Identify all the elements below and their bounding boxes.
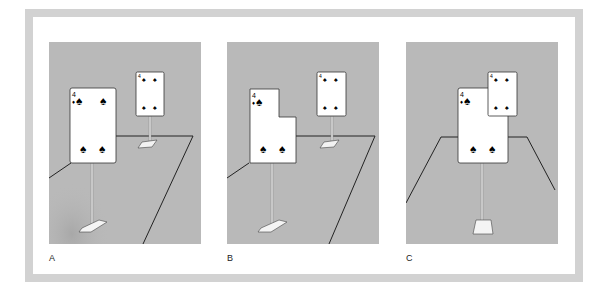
svg-text:♠: ♠ bbox=[505, 76, 509, 83]
svg-text:♠: ♠ bbox=[323, 76, 327, 83]
svg-text:♠: ♠ bbox=[99, 142, 106, 156]
panel-c-illustration: 4 ♦ ♠ ♠ ♠ 4 ♠ ♠ ♠ ♠ bbox=[406, 42, 558, 244]
svg-text:♠: ♠ bbox=[323, 104, 327, 111]
svg-text:♠: ♠ bbox=[334, 104, 338, 111]
panel-b-label: B bbox=[227, 253, 233, 263]
svg-text:4: 4 bbox=[138, 73, 141, 79]
svg-text:♠: ♠ bbox=[142, 104, 146, 111]
svg-text:♠: ♠ bbox=[470, 142, 477, 156]
svg-text:♠: ♠ bbox=[279, 142, 286, 156]
panel-b-illustration: 4 ♠ ♠ ♠ ♠ 4 ♦ ♠ ♠ ♠ bbox=[227, 42, 379, 244]
svg-text:♠: ♠ bbox=[153, 76, 157, 83]
svg-text:4: 4 bbox=[490, 73, 493, 79]
svg-text:♠: ♠ bbox=[80, 142, 87, 156]
svg-text:♠: ♠ bbox=[100, 94, 107, 108]
panel-b: 4 ♠ ♠ ♠ ♠ 4 ♦ ♠ ♠ ♠ bbox=[227, 42, 379, 244]
svg-text:♠: ♠ bbox=[260, 142, 267, 156]
panel-a-illustration: 4 ♠ ♠ ♠ ♠ 4 ♦ ♠ ♠ ♠ ♠ bbox=[49, 42, 201, 244]
svg-text:♦: ♦ bbox=[460, 99, 463, 105]
svg-text:♠: ♠ bbox=[256, 95, 263, 109]
svg-text:♠: ♠ bbox=[494, 104, 498, 111]
panel-a-label: A bbox=[49, 253, 55, 263]
svg-text:♦: ♦ bbox=[72, 99, 75, 105]
svg-text:♦: ♦ bbox=[252, 100, 255, 106]
svg-text:♠: ♠ bbox=[489, 142, 496, 156]
svg-text:♠: ♠ bbox=[334, 76, 338, 83]
panel-a: 4 ♠ ♠ ♠ ♠ 4 ♦ ♠ ♠ ♠ ♠ bbox=[49, 42, 201, 244]
svg-text:♠: ♠ bbox=[505, 104, 509, 111]
svg-text:♠: ♠ bbox=[76, 94, 83, 108]
svg-text:♠: ♠ bbox=[494, 76, 498, 83]
svg-text:♠: ♠ bbox=[142, 76, 146, 83]
svg-text:♠: ♠ bbox=[464, 94, 471, 108]
panel-c: 4 ♦ ♠ ♠ ♠ 4 ♠ ♠ ♠ ♠ bbox=[406, 42, 558, 244]
figure-frame: 4 ♠ ♠ ♠ ♠ 4 ♦ ♠ ♠ ♠ ♠ A bbox=[25, 9, 583, 282]
figure-inner: 4 ♠ ♠ ♠ ♠ 4 ♦ ♠ ♠ ♠ ♠ A bbox=[33, 17, 575, 274]
panel-c-label: C bbox=[406, 253, 413, 263]
svg-text:♠: ♠ bbox=[153, 104, 157, 111]
svg-text:4: 4 bbox=[319, 73, 322, 79]
